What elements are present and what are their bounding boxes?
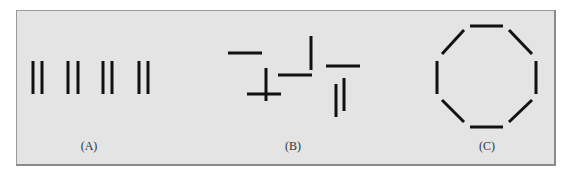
panel-c-lines: [437, 26, 536, 127]
line-segment: [442, 30, 464, 54]
panel-b-label: (B): [285, 139, 301, 154]
panel-b-lines: [228, 36, 360, 117]
line-segment: [509, 30, 532, 54]
line-segment: [509, 100, 532, 122]
panel-a-label: (A): [81, 139, 98, 154]
line-segment: [442, 100, 464, 122]
panel-a-lines: [33, 61, 148, 94]
panel-c-label: (C): [479, 139, 495, 154]
